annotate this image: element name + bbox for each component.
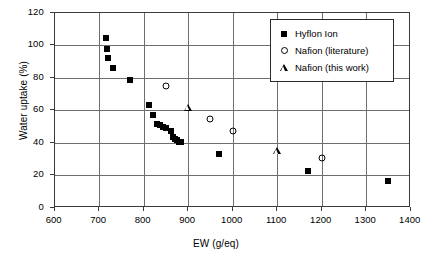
- data-point-marker: [127, 77, 133, 83]
- y-axis-tick-label: 80: [16, 71, 44, 82]
- data-point-marker: [273, 147, 281, 154]
- x-axis-tick-label: 1300: [345, 214, 385, 225]
- data-point-marker: [184, 104, 192, 111]
- gridline-horizontal: [55, 143, 409, 144]
- x-axis-tick-label: 600: [34, 214, 74, 225]
- y-axis-tick-label: 60: [16, 103, 44, 114]
- data-point-marker: [105, 55, 111, 61]
- x-axis-tick: [143, 207, 144, 211]
- data-point-marker: [103, 35, 109, 41]
- data-point-marker: [207, 116, 214, 123]
- gridline-horizontal: [55, 175, 409, 176]
- y-axis-tick-label: 20: [16, 168, 44, 179]
- data-point-marker: [305, 168, 311, 174]
- y-axis-tick: [50, 109, 54, 110]
- x-axis-tick: [98, 207, 99, 211]
- x-axis-tick-label: 1400: [390, 214, 430, 225]
- gridline-vertical: [99, 13, 100, 206]
- legend-item-label: Nafion (literature): [295, 45, 368, 56]
- y-axis-tick: [50, 44, 54, 45]
- data-point-marker: [168, 128, 174, 134]
- y-axis-tick: [50, 12, 54, 13]
- data-point-marker: [104, 46, 110, 52]
- gridline-vertical: [233, 13, 234, 206]
- y-axis-tick: [50, 207, 54, 208]
- y-axis-tick-label: 100: [16, 38, 44, 49]
- x-axis-tick-label: 1100: [256, 214, 296, 225]
- x-axis-tick: [232, 207, 233, 211]
- data-point-marker: [385, 178, 391, 184]
- y-axis-tick: [50, 77, 54, 78]
- x-axis-tick: [276, 207, 277, 211]
- y-axis-tick-label: 40: [16, 136, 44, 147]
- x-axis-tick-label: 1000: [212, 214, 252, 225]
- gridline-horizontal: [55, 110, 409, 111]
- gridline-vertical: [144, 13, 145, 206]
- x-axis-tick-label: 900: [167, 214, 207, 225]
- data-point-marker: [229, 128, 236, 135]
- x-axis-tick: [321, 207, 322, 211]
- data-point-marker: [318, 155, 325, 162]
- x-axis-tick-label: 700: [78, 214, 118, 225]
- data-point-marker: [110, 65, 116, 71]
- y-axis-tick: [50, 174, 54, 175]
- x-axis-tick-label: 1200: [301, 214, 341, 225]
- x-axis-tick-label: 800: [123, 214, 163, 225]
- y-axis-tick-label: 0: [16, 201, 44, 212]
- legend-item-hyflon-ion: Hyflon Ion: [278, 25, 387, 42]
- x-axis-tick: [54, 207, 55, 211]
- legend-item-label: Nafion (this work): [295, 62, 369, 73]
- x-axis-tick: [365, 207, 366, 211]
- y-axis-tick: [50, 142, 54, 143]
- legend-item-label: Hyflon Ion: [295, 28, 338, 39]
- data-point-marker: [216, 151, 222, 157]
- x-axis-title: EW (g/eq): [0, 238, 432, 249]
- x-axis-tick: [187, 207, 188, 211]
- legend-item-nafion-this-work: Nafion (this work): [278, 59, 387, 76]
- legend-item-nafion-literature: Nafion (literature): [278, 42, 387, 59]
- x-axis-tick: [410, 207, 411, 211]
- chart-figure: EW (g/eq) Water uptake (%) Hyflon Ion Na…: [0, 0, 432, 267]
- data-point-marker: [146, 102, 152, 108]
- open-circle-icon: [278, 45, 290, 57]
- data-point-marker: [163, 83, 170, 90]
- y-axis-tick-label: 120: [16, 6, 44, 17]
- data-point-marker: [178, 139, 184, 145]
- open-triangle-icon: [278, 62, 290, 74]
- chart-legend: Hyflon Ion Nafion (literature) Nafion (t…: [270, 19, 394, 82]
- data-point-marker: [150, 112, 156, 118]
- filled-square-icon: [278, 28, 290, 40]
